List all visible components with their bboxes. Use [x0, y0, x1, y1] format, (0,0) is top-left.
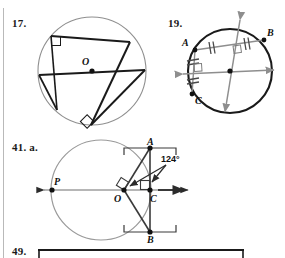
point-label-P-41: P: [54, 176, 61, 187]
center-label-O-17: O: [82, 56, 89, 67]
angle-measure-label-41: 124°: [161, 154, 180, 164]
right-angle-mark-AB-19: [233, 45, 241, 53]
point-label-B-19: B: [266, 27, 274, 38]
problem-number-49: 49.: [12, 245, 26, 257]
right-angle-mark-AC-19: [194, 63, 202, 71]
problem-number-17: 17.: [12, 17, 26, 29]
right-angle-mark-upper-left-17: [52, 37, 61, 46]
figure-problem-49-partial: [38, 246, 248, 258]
point-C-dot-41: [147, 187, 152, 192]
point-label-B-41: B: [146, 234, 154, 245]
chord-main-diagonal-17: [91, 42, 130, 125]
point-A-dot-19: [193, 48, 198, 53]
point-P-dot-41: [49, 187, 54, 192]
point-label-O-41: O: [114, 193, 121, 204]
perpendicular-bisector-AB-19[interactable]: [225, 20, 240, 112]
center-point-O-17: [89, 68, 94, 73]
point-label-C-41: C: [150, 193, 157, 204]
center-point-19: [227, 68, 232, 73]
figure-problem-17: O: [26, 14, 160, 132]
right-angle-mark-at-C-41: [141, 181, 150, 190]
figure-problem-19: A B C: [178, 14, 280, 126]
chord-AC-19: [192, 50, 195, 94]
point-O-dot-41: [121, 187, 126, 192]
point-label-A-19: A: [181, 37, 189, 48]
chord-top-17: [51, 36, 130, 42]
chord-lower-right-17: [91, 70, 145, 125]
angle-callout-arrow-41: [130, 165, 166, 186]
point-label-C-19: C: [195, 95, 202, 106]
page-margin-rule: [3, 8, 4, 258]
point-label-A-41: A: [146, 136, 154, 147]
point-B-dot-19: [262, 38, 267, 43]
figure-problem-41: P A O C B 124°: [26, 138, 206, 246]
scanned-textbook-page: 17.: [0, 0, 285, 258]
point-C-dot-19: [190, 92, 195, 97]
chord-AB-19: [195, 40, 264, 50]
